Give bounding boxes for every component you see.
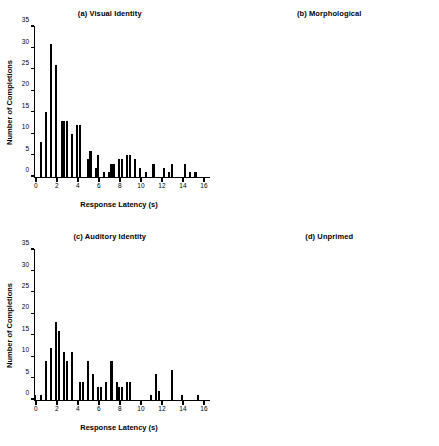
x-tick-mark — [182, 401, 183, 405]
panel-c-x-axis-title: Response Latency (s) — [34, 423, 204, 432]
histogram-bar — [139, 168, 141, 177]
y-tick-label: 5 — [25, 368, 29, 375]
x-tick-label: 16 — [200, 183, 207, 190]
x-tick-mark — [35, 178, 36, 182]
y-tick-mark — [31, 68, 35, 69]
histogram-bar — [181, 395, 183, 399]
histogram-bar — [58, 331, 60, 400]
x-tick-mark — [203, 401, 204, 405]
histogram-bar — [103, 172, 105, 176]
histogram-bar — [121, 387, 123, 400]
y-tick-mark — [31, 133, 35, 134]
y-tick-mark — [31, 154, 35, 155]
histogram-bar — [145, 172, 147, 176]
y-tick-mark — [31, 313, 35, 314]
histogram-bar — [97, 155, 99, 176]
panel-c-auditory-identity: (c) Auditory Identity Number of Completi… — [0, 223, 220, 446]
y-tick-label: 0 — [25, 167, 29, 174]
x-tick-mark — [98, 401, 99, 405]
y-tick-label: 20 — [22, 304, 29, 311]
histogram-bar — [71, 352, 73, 399]
y-tick-mark — [31, 291, 35, 292]
panel-a-plot-area: 05101520253035 0246810121416 — [34, 26, 204, 178]
histogram-bar — [45, 112, 47, 176]
histogram-bar — [129, 155, 131, 176]
x-tick-label: 10 — [137, 406, 144, 413]
x-tick-label: 16 — [200, 406, 207, 413]
y-tick-mark — [31, 334, 35, 335]
y-tick-label: 15 — [22, 103, 29, 110]
histogram-bar — [134, 159, 136, 176]
y-tick-label: 20 — [22, 81, 29, 88]
y-tick-label: 35 — [22, 240, 29, 247]
histogram-bar — [163, 168, 165, 177]
panel-b-title: (b) Morphological — [220, 9, 439, 18]
histogram-bar — [113, 164, 115, 177]
histogram-bar — [40, 395, 42, 399]
x-tick-mark — [56, 178, 57, 182]
histogram-bar — [171, 370, 173, 400]
panel-a-bars — [35, 26, 204, 177]
panel-d-unprimed: (d) Unprimed Number of Completions 05101… — [220, 223, 439, 446]
y-tick-label: 30 — [22, 38, 29, 45]
histogram-bar — [105, 382, 107, 399]
figure-four-panel-histograms: (a) Visual Identity Number of Completion… — [0, 0, 439, 446]
histogram-bar — [34, 395, 36, 399]
x-tick-mark — [56, 401, 57, 405]
histogram-bar — [82, 382, 84, 399]
y-tick-mark — [31, 47, 35, 48]
x-tick-label: 6 — [97, 406, 101, 413]
x-tick-mark — [161, 401, 162, 405]
panel-c-y-axis-title: Number of Completions — [4, 249, 14, 401]
histogram-bar — [171, 164, 173, 177]
y-tick-mark — [31, 270, 35, 271]
x-tick-mark — [182, 178, 183, 182]
x-tick-label: 2 — [55, 183, 59, 190]
histogram-bar — [92, 374, 94, 400]
histogram-bar — [55, 65, 57, 176]
x-tick-label: 4 — [76, 183, 80, 190]
y-tick-label: 30 — [22, 261, 29, 268]
histogram-bar — [152, 164, 154, 177]
y-tick-label: 35 — [22, 17, 29, 24]
panel-a-y-axis-title: Number of Completions — [4, 26, 14, 178]
y-tick-label: 25 — [22, 283, 29, 290]
y-tick-label: 10 — [22, 347, 29, 354]
y-tick-mark — [31, 356, 35, 357]
y-tick-label: 5 — [25, 145, 29, 152]
histogram-bar — [194, 172, 196, 176]
x-tick-label: 8 — [118, 183, 122, 190]
panel-c-x-axis: 0246810121416 — [34, 400, 210, 401]
histogram-bar — [100, 387, 102, 400]
panel-a-visual-identity: (a) Visual Identity Number of Completion… — [0, 0, 220, 223]
x-tick-mark — [119, 401, 120, 405]
x-tick-mark — [203, 178, 204, 182]
histogram-bar — [150, 395, 152, 399]
x-tick-mark — [35, 401, 36, 405]
x-tick-label: 4 — [76, 406, 80, 413]
x-tick-label: 0 — [34, 183, 38, 190]
x-tick-mark — [77, 178, 78, 182]
histogram-bar — [79, 125, 81, 176]
x-tick-mark — [119, 178, 120, 182]
histogram-bar — [89, 151, 91, 177]
x-tick-label: 12 — [158, 183, 165, 190]
panel-a-title: (a) Visual Identity — [0, 9, 220, 18]
histogram-bar — [87, 361, 89, 400]
panel-d-title: (d) Unprimed — [220, 232, 439, 241]
histogram-bar — [66, 361, 68, 400]
y-tick-label: 15 — [22, 326, 29, 333]
y-tick-label: 25 — [22, 60, 29, 67]
x-tick-mark — [98, 178, 99, 182]
y-tick-mark — [31, 90, 35, 91]
y-tick-label: 10 — [22, 124, 29, 131]
histogram-bar — [158, 391, 160, 400]
x-tick-label: 8 — [118, 406, 122, 413]
histogram-bar — [121, 159, 123, 176]
x-tick-mark — [77, 401, 78, 405]
y-tick-mark — [31, 377, 35, 378]
histogram-bar — [110, 361, 112, 400]
x-tick-mark — [140, 401, 141, 405]
histogram-bar — [50, 44, 52, 177]
panel-a-x-axis-title: Response Latency (s) — [34, 200, 204, 209]
